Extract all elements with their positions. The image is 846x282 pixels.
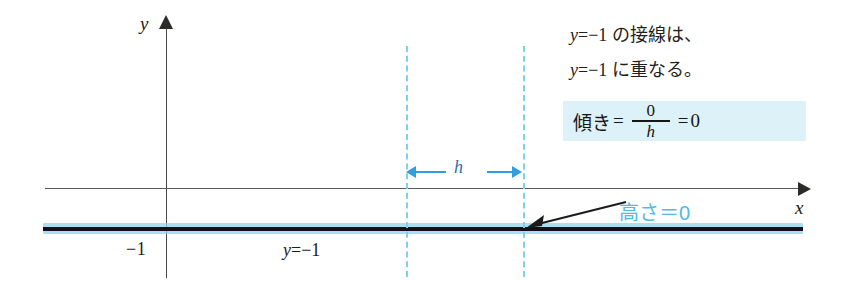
- slope-fraction: 0 h: [632, 102, 670, 140]
- note-line-2-text: =−1 に重なる。: [578, 60, 702, 80]
- x-axis-line: [45, 188, 803, 189]
- x-axis-arrowhead-icon: [798, 182, 811, 196]
- slope-formula: 傾き = 0 h = 0: [573, 99, 700, 143]
- annotation-note-block: y=−1 の接線は、 y=−1 に重なる。: [570, 26, 820, 96]
- curve-equation-label: y=−1: [283, 240, 320, 261]
- slope-formula-result: 0: [690, 110, 700, 132]
- slope-fraction-numerator: 0: [646, 102, 655, 120]
- x-axis-label: x: [795, 197, 803, 219]
- slope-formula-equals-1: =: [613, 110, 624, 132]
- h-arrow-right-shaft: [487, 171, 514, 173]
- note-line-1-text: =−1 の接線は、: [578, 25, 702, 45]
- note-line-2: y=−1 に重なる。: [570, 61, 820, 79]
- slope-formula-equals-2: =: [678, 110, 689, 132]
- note-line-1: y=−1 の接線は、: [570, 26, 820, 44]
- note-line-2-variable: y: [570, 60, 578, 80]
- curve-line-y-equals-minus-one: [43, 227, 803, 231]
- y-axis-line: [166, 22, 168, 278]
- h-arrow-right-icon: [512, 166, 522, 178]
- curve-equation-variable: y: [283, 240, 291, 260]
- curve-equation-rest: =−1: [291, 240, 320, 260]
- graph-figure: y x h −1 y=−1 y=−1 の接線は、 y=−1 に重なる。 傾き =…: [0, 0, 846, 282]
- height-callout-arrow-icon: [520, 198, 630, 232]
- height-zero-callout-label: 高さ＝0: [619, 197, 690, 226]
- h-arrow-left-shaft: [413, 171, 446, 173]
- slope-fraction-denominator: h: [646, 122, 655, 140]
- note-line-1-variable: y: [570, 25, 578, 45]
- h-measure-group: h: [406, 161, 524, 183]
- h-measure-label: h: [454, 157, 463, 178]
- slope-formula-lead: 傾き: [573, 108, 611, 135]
- y-axis-arrowhead-icon: [159, 15, 173, 29]
- y-axis-label: y: [140, 13, 148, 35]
- tick-label-minus-one: −1: [126, 239, 146, 260]
